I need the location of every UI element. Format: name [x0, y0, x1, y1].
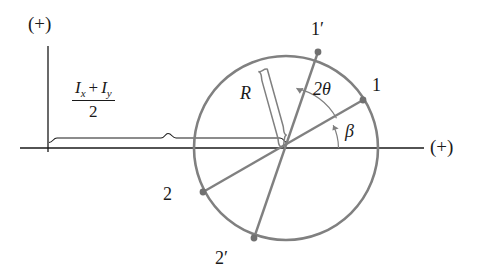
angle-beta-label: β	[345, 122, 354, 140]
horizontal-axis-plus-label: (+)	[430, 137, 453, 156]
point-marker-1-prime	[315, 49, 322, 56]
dimension-brace	[49, 134, 287, 143]
point-marker-1	[360, 97, 367, 104]
fraction-denominator: 2	[72, 101, 115, 122]
diameter-line-1prime-2prime	[254, 52, 318, 238]
angle-two-theta-label: 2θ	[313, 80, 331, 98]
fraction-operator: +	[86, 78, 102, 97]
mohrs-circle-figure: (+) (+) Ix+Iy 2 1′ 1 2 2′ R 2θ β	[0, 0, 481, 275]
point-1-label: 1	[372, 76, 381, 94]
point-marker-2-prime	[251, 235, 258, 242]
point-1-prime-label: 1′	[311, 20, 324, 38]
vertical-axis-plus-label: (+)	[28, 14, 51, 33]
fraction-numerator: Ix+Iy	[72, 78, 115, 101]
point-marker-2	[200, 189, 207, 196]
point-2-prime-label: 2′	[215, 249, 228, 267]
radius-brace	[258, 69, 287, 147]
average-inertia-fraction: Ix+Iy 2	[72, 78, 115, 122]
point-2-label: 2	[163, 185, 172, 203]
numerator-ix-subscript: x	[81, 87, 86, 99]
radius-label: R	[240, 84, 251, 102]
diagram-canvas	[0, 0, 481, 275]
angle-arc-beta	[332, 125, 338, 148]
numerator-iy-subscript: y	[107, 87, 112, 99]
